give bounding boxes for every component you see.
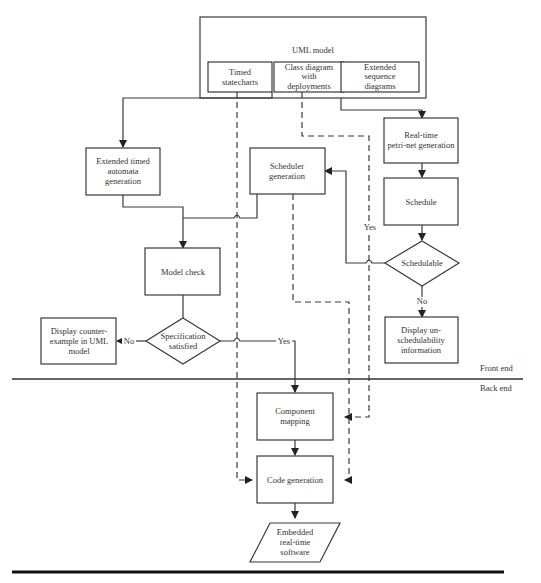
svg-text:Code generation: Code generation [267,475,324,485]
svg-text:mapping: mapping [280,416,310,426]
svg-text:Component: Component [275,406,315,416]
svg-text:real-time: real-time [280,537,311,547]
svg-text:sequence: sequence [364,71,395,81]
svg-text:Schedule: Schedule [405,197,436,207]
svg-text:information: information [401,345,442,355]
node-schedulable-decision: Schedulable [385,241,459,286]
timed-statecharts-box: Timed statecharts [208,62,272,92]
svg-text:statecharts: statecharts [222,77,258,87]
svg-text:with: with [301,71,317,81]
svg-text:diagrams: diagrams [364,81,395,91]
svg-text:Specification: Specification [161,331,207,341]
svg-text:deployments: deployments [287,81,330,91]
svg-text:Display counter-: Display counter- [51,326,108,336]
label-yes-schedulable: Yes [364,222,376,232]
front-end-label: Front end [480,363,514,373]
svg-text:schedulability: schedulability [397,335,445,345]
node-code-generation: Code generation [257,456,333,503]
front-back-separator: Front end Back end [12,363,523,393]
svg-text:Embedded: Embedded [277,527,314,537]
node-counter-example: Display counter- example in UML model [41,318,116,364]
label-yes-spec: Yes [278,336,290,346]
svg-text:generation: generation [269,171,306,181]
svg-text:Schedulable: Schedulable [401,258,443,268]
uml-model-title: UML model [292,45,335,55]
svg-text:example in UML: example in UML [50,336,109,346]
svg-text:petri-net generation: petri-net generation [388,140,456,150]
flowchart: UML model Timed statecharts Class diagra… [0,0,541,583]
svg-text:automata: automata [107,166,138,176]
svg-text:Model check: Model check [161,267,206,277]
svg-text:Display un-: Display un- [401,325,441,335]
node-embedded-software: Embedded real-time software [250,523,340,562]
back-end-label: Back end [480,383,513,393]
svg-text:satisfied: satisfied [169,341,198,351]
node-unschedulability: Display un- schedulability information [385,317,458,363]
node-model-check: Model check [145,248,220,295]
svg-text:Extended timed: Extended timed [96,156,150,166]
node-component-mapping: Component mapping [257,393,333,440]
node-petri-net-generation: Real-time petri-net generation [384,118,458,163]
node-scheduler-generation: Scheduler generation [250,148,325,194]
label-no-spec: No [124,336,134,346]
label-no-schedulable: No [417,296,427,306]
svg-text:model: model [68,346,90,356]
svg-text:Real-time: Real-time [404,130,438,140]
node-extended-timed-automata: Extended timed automata generation [86,148,160,195]
svg-text:Scheduler: Scheduler [270,161,304,171]
class-diagram-box: Class diagram with deployments [274,62,344,92]
extended-sequence-box: Extended sequence diagrams [341,62,419,92]
svg-text:software: software [280,547,309,557]
node-specification-decision: Specification satisfied [146,318,220,364]
svg-text:generation: generation [105,176,142,186]
svg-text:Timed: Timed [229,67,252,77]
node-schedule: Schedule [384,178,458,225]
